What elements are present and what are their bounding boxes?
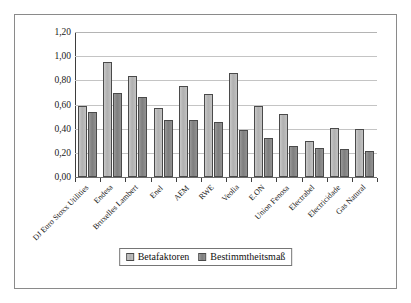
- y-axis-tick-label: 1,00: [54, 50, 71, 62]
- legend-swatch-icon-betafaktoren: [126, 253, 134, 261]
- legend-swatch-icon-bestimmtheitsmass: [198, 253, 206, 261]
- legend-label-bestimmtheitsmass: Bestimmtheitsmaß: [210, 251, 285, 262]
- bar[interactable]: [289, 146, 298, 177]
- y-axis-tick-label: 0,40: [54, 123, 71, 135]
- bar-group: [179, 32, 198, 177]
- bar[interactable]: [138, 97, 147, 177]
- bar[interactable]: [189, 120, 198, 177]
- legend-entry-betafaktoren[interactable]: Betafaktoren: [126, 251, 190, 262]
- x-axis-category-label: DJ Euro Stoxx Utilities: [31, 183, 90, 242]
- plot-area: [75, 32, 377, 177]
- chart-legend: Betafaktoren Bestimmtheitsmaß: [119, 248, 293, 266]
- bar[interactable]: [239, 130, 248, 177]
- bar-group: [279, 32, 298, 177]
- bar[interactable]: [365, 151, 374, 177]
- bar[interactable]: [88, 112, 97, 177]
- x-axis-category-label: RWE: [197, 183, 216, 202]
- bar[interactable]: [279, 114, 288, 177]
- bar[interactable]: [330, 128, 339, 177]
- y-axis-tick-label: 0,20: [54, 147, 71, 159]
- bar[interactable]: [340, 149, 349, 177]
- bar[interactable]: [214, 122, 223, 177]
- bar-group: [78, 32, 97, 177]
- bar[interactable]: [315, 148, 324, 177]
- bars-layer: [75, 32, 377, 177]
- bar-group: [305, 32, 324, 177]
- bar[interactable]: [103, 62, 112, 177]
- bar-group: [355, 32, 374, 177]
- bar[interactable]: [128, 76, 137, 177]
- x-axis-category-label: Endesa: [92, 183, 115, 206]
- x-axis-category-label: E.ON: [247, 183, 266, 202]
- x-axis-category-label: Veolia: [220, 183, 241, 204]
- bar-group: [204, 32, 223, 177]
- bar[interactable]: [254, 106, 263, 177]
- y-axis-tick-label: 0,80: [54, 74, 71, 86]
- chart-figure: 0,000,200,400,600,801,001,20 DJ Euro Sto…: [14, 14, 397, 289]
- y-axis-tick-label: 0,60: [54, 99, 71, 111]
- bar[interactable]: [113, 93, 122, 177]
- bar-group: [229, 32, 248, 177]
- bar-group: [254, 32, 273, 177]
- bar[interactable]: [164, 120, 173, 177]
- legend-label-betafaktoren: Betafaktoren: [138, 251, 190, 262]
- x-axis-category-label: Enel: [148, 183, 165, 200]
- bar-group: [330, 32, 349, 177]
- y-axis-tick-label: 1,20: [54, 26, 71, 38]
- y-axis-tick-labels: 0,000,200,400,600,801,001,20: [33, 26, 71, 183]
- bar-group: [154, 32, 173, 177]
- bar[interactable]: [154, 108, 163, 177]
- bar-group: [103, 32, 122, 177]
- bar[interactable]: [355, 129, 364, 177]
- bar[interactable]: [78, 106, 87, 177]
- bar[interactable]: [229, 73, 238, 177]
- bar[interactable]: [264, 138, 273, 177]
- bar[interactable]: [204, 94, 213, 177]
- bar[interactable]: [179, 86, 188, 177]
- bar[interactable]: [305, 141, 314, 177]
- legend-entry-bestimmtheitsmass[interactable]: Bestimmtheitsmaß: [198, 251, 285, 262]
- x-axis-category-label: AEM: [172, 183, 191, 202]
- bar-group: [128, 32, 147, 177]
